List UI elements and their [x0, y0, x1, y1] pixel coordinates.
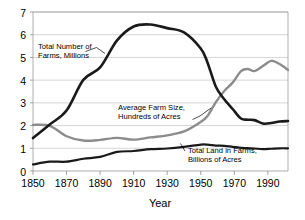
x-tick-label: 1850 — [21, 177, 45, 189]
x-tick-label: 1990 — [256, 177, 280, 189]
y-tick-label: 3 — [20, 97, 26, 109]
x-axis-title: Year — [149, 197, 172, 209]
annotation-farms-count: Total Number of Farms, Millions — [38, 42, 92, 60]
y-tick-label: 2 — [20, 120, 26, 132]
farm-statistics-chart: 0 1 2 3 4 5 6 7 1850 1870 1890 1910 1930… — [0, 0, 305, 220]
x-tick-label: 1910 — [122, 177, 146, 189]
y-tick-label: 7 — [20, 7, 26, 19]
annotation-farm-size-line1: Average Farm Size, — [118, 103, 185, 112]
x-axis-labels: 1850 1870 1890 1910 1930 1950 1970 1990 — [21, 177, 279, 189]
annotation-farm-size: Average Farm Size, Hundreds of Acres — [118, 103, 185, 121]
y-tick-label: 4 — [20, 75, 26, 87]
x-tickmarks — [33, 171, 268, 175]
chart-canvas: 0 1 2 3 4 5 6 7 1850 1870 1890 1910 1930… — [0, 0, 305, 220]
annotation-farm-size-line2: Hundreds of Acres — [118, 112, 181, 121]
x-tick-label: 1890 — [88, 177, 112, 189]
y-tick-label: 5 — [20, 52, 26, 64]
x-tick-label: 1970 — [223, 177, 247, 189]
x-tick-label: 1930 — [156, 177, 180, 189]
annotation-land-in-farms-line1: Total Land in Farms, — [188, 146, 257, 155]
y-tick-label: 6 — [20, 29, 26, 41]
x-tick-label: 1950 — [189, 177, 213, 189]
y-axis-labels: 0 1 2 3 4 5 6 7 — [20, 7, 26, 178]
x-tick-label: 1870 — [55, 177, 79, 189]
annotation-farms-count-line1: Total Number of — [38, 42, 92, 51]
annotation-farms-count-line2: Farms, Millions — [38, 51, 89, 60]
y-tick-label: 0 — [20, 166, 26, 178]
y-tick-label: 1 — [20, 143, 26, 155]
annotation-land-in-farms-line2: Billions of Acres — [188, 155, 242, 164]
y-tickmarks — [30, 12, 33, 171]
